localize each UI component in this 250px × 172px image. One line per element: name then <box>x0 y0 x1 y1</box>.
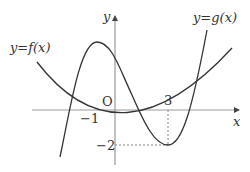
tick-label-y-neg2: −2 <box>96 138 115 153</box>
origin-label: O <box>102 94 113 109</box>
curve-g <box>60 30 207 157</box>
g-label: y=g(x) <box>192 10 237 25</box>
tick-label-x-3: 3 <box>164 93 172 108</box>
tick-label-x-neg1: −1 <box>80 111 99 126</box>
function-graph: y=f(x) y=g(x) y x O −1 3 −2 <box>0 0 250 172</box>
y-axis-label: y <box>102 9 111 24</box>
x-axis-label: x <box>233 114 241 129</box>
curve-f <box>37 48 232 113</box>
f-label: y=f(x) <box>9 40 51 55</box>
